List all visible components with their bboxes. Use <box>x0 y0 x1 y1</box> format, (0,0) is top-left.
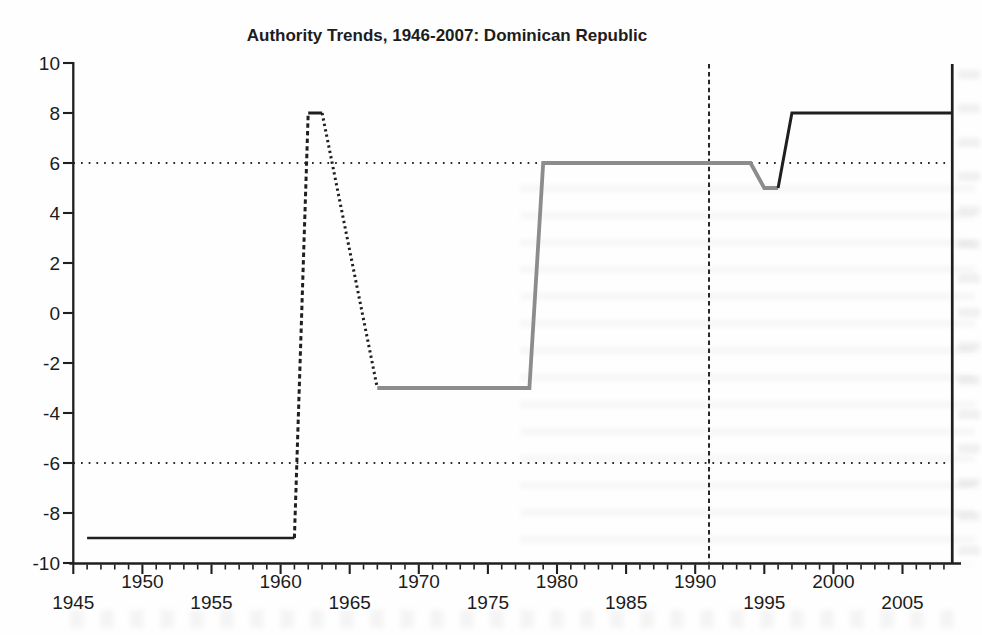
polity-line-segment-5 <box>778 113 952 188</box>
y-tick-label--6: -6 <box>43 453 60 474</box>
y-tick-label--8: -8 <box>43 503 60 524</box>
y-tick-label-10: 10 <box>39 53 60 74</box>
chart-title: Authority Trends, 1946-2007: Dominican R… <box>247 26 648 45</box>
x-tick-label-1995: 1995 <box>743 592 785 613</box>
x-tick-label-1970: 1970 <box>398 571 440 592</box>
y-tick-label-4: 4 <box>49 203 60 224</box>
polity-line-segment-4 <box>377 163 778 388</box>
y-tick-label-8: 8 <box>49 103 60 124</box>
y-tick-label--10: -10 <box>33 553 60 574</box>
x-tick-label-1980: 1980 <box>536 571 578 592</box>
x-tick-label-1985: 1985 <box>605 592 647 613</box>
x-tick-label-1990: 1990 <box>674 571 716 592</box>
authority-trends-chart: Authority Trends, 1946-2007: Dominican R… <box>0 0 982 635</box>
y-tick-label-6: 6 <box>49 153 60 174</box>
x-tick-label-1975: 1975 <box>467 592 509 613</box>
y-tick-label--2: -2 <box>43 353 60 374</box>
x-tick-label-1965: 1965 <box>329 592 371 613</box>
x-tick-label-2000: 2000 <box>812 571 854 592</box>
y-tick-label-0: 0 <box>49 303 60 324</box>
x-tick-label-1960: 1960 <box>259 571 301 592</box>
scanned-chart-page: Authority Trends, 1946-2007: Dominican R… <box>0 0 982 635</box>
x-tick-label-1955: 1955 <box>190 592 232 613</box>
y-tick-label-2: 2 <box>49 253 60 274</box>
x-tick-label-1950: 1950 <box>121 571 163 592</box>
y-tick-label--4: -4 <box>43 403 60 424</box>
polity-line-segment-1 <box>294 113 308 538</box>
polity-line-segment-3 <box>322 113 377 388</box>
x-tick-label-1945: 1945 <box>52 592 94 613</box>
x-tick-label-2005: 2005 <box>881 592 923 613</box>
